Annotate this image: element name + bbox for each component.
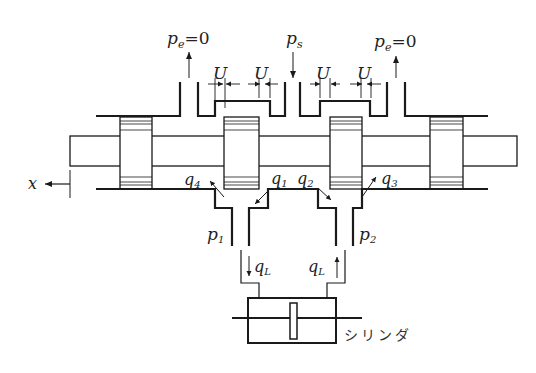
piston <box>290 303 297 339</box>
load-flow-left-label: qL <box>254 257 271 277</box>
lower-sleeve <box>96 189 488 246</box>
cylinder <box>232 298 362 343</box>
pipe-to-cylinder-right <box>327 250 345 298</box>
exhaust-right-label: pe=0 <box>374 31 416 54</box>
load-flow-right-label: qL <box>308 257 325 277</box>
land-3 <box>330 117 362 189</box>
flow-q3-label: q3 <box>381 169 398 189</box>
exhaust-left-label: pe=0 <box>167 28 209 51</box>
spool-valve-diagram: U U U U pe=0 ps pe=0 x q4 q1 q2 q3 p1 p2 <box>0 0 536 373</box>
cylinder-label: シリンダ <box>344 327 412 343</box>
flow-q1-label: q1 <box>271 169 288 189</box>
underlap-dimensions <box>208 78 381 108</box>
underlap-label-1: U <box>213 63 228 83</box>
underlap-label-4: U <box>357 63 372 83</box>
port-pressure-p2-label: p2 <box>359 224 376 245</box>
underlap-label-2: U <box>254 63 269 83</box>
flow-q2-arrow <box>318 188 331 200</box>
flow-q4-label: q4 <box>184 170 201 190</box>
x-axis-label: x <box>28 174 37 193</box>
flow-q2-label: q2 <box>297 169 314 189</box>
flow-q1-arrow <box>255 192 267 204</box>
upper-sleeve <box>96 82 488 116</box>
flow-q3-arrow <box>362 177 376 197</box>
land-2 <box>224 117 259 189</box>
port-pressure-p1-label: p1 <box>207 224 224 245</box>
land-4 <box>430 117 463 189</box>
supply-label: ps <box>286 28 303 51</box>
underlap-label-3: U <box>316 63 331 83</box>
land-1 <box>120 117 152 189</box>
